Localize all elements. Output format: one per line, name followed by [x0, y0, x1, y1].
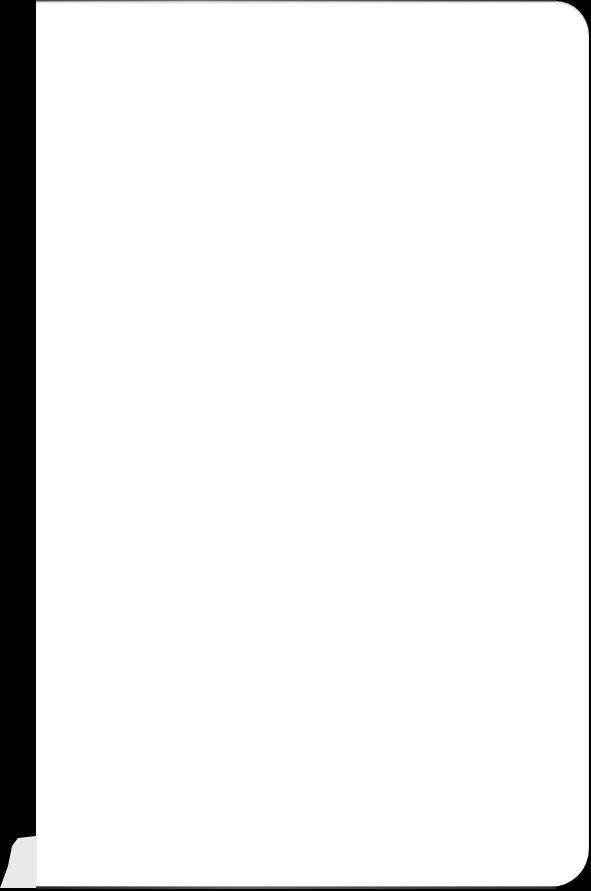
page-bottom-edge — [36, 886, 556, 889]
blank-page — [36, 1, 589, 887]
page-top-edge — [36, 0, 556, 2]
corner-flap — [0, 836, 36, 888]
photo-scene — [0, 0, 591, 891]
